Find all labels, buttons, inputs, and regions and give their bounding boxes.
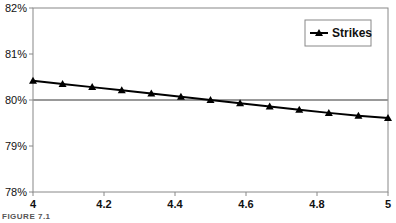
- x-tick-label: 5: [385, 198, 391, 210]
- x-tick-label: 4.2: [96, 198, 111, 210]
- x-tick-label: 4.4: [167, 198, 183, 210]
- y-tick-label: 81%: [5, 48, 27, 60]
- y-tick-label: 82%: [5, 2, 27, 14]
- series-group: [29, 77, 392, 121]
- figure-caption: FIGURE 7.1: [2, 212, 51, 221]
- legend: Strikes: [305, 20, 372, 46]
- line-chart: 78%79%80%81%82%44.24.44.64.85 Strikes: [0, 0, 396, 223]
- y-tick-label: 79%: [5, 140, 27, 152]
- y-tick-label: 80%: [5, 94, 27, 106]
- x-tick-label: 4.6: [238, 198, 253, 210]
- x-tick-label: 4.8: [309, 198, 324, 210]
- legend-label: Strikes: [332, 26, 372, 40]
- x-tick-label: 4: [30, 198, 37, 210]
- y-tick-label: 78%: [5, 186, 27, 198]
